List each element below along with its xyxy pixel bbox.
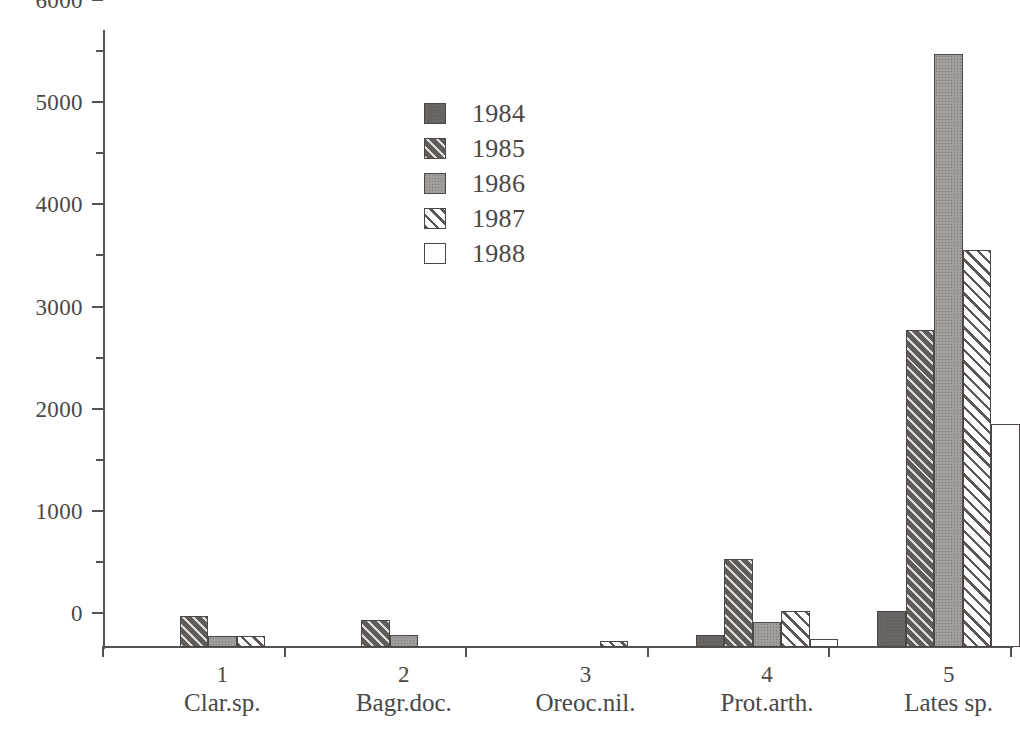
x-axis-group-name: Clar.sp. bbox=[184, 688, 260, 718]
y-axis-minor-tick bbox=[96, 357, 103, 359]
x-axis-group-name: Prot.arth. bbox=[721, 688, 814, 718]
y-axis-tick-label: 6000 bbox=[35, 0, 83, 12]
legend-item: 1984 bbox=[424, 96, 525, 131]
y-axis-tick-label: 5000 bbox=[35, 91, 83, 114]
bar bbox=[237, 636, 266, 647]
x-axis-tick bbox=[647, 646, 649, 657]
y-axis-tick bbox=[92, 612, 103, 614]
x-axis-group-name: Oreoc.nil. bbox=[535, 688, 635, 718]
bar bbox=[390, 635, 419, 647]
legend-item-label: 1984 bbox=[472, 101, 525, 127]
y-axis-minor-tick bbox=[96, 459, 103, 461]
y-axis-tick-label: 0 bbox=[71, 602, 83, 625]
y-axis-minor-tick bbox=[96, 254, 103, 256]
legend-swatch-icon bbox=[424, 208, 446, 229]
legend-swatch-icon bbox=[424, 243, 446, 264]
y-axis-tick bbox=[92, 408, 103, 410]
y-axis-tick-label: 2000 bbox=[35, 397, 83, 420]
bar bbox=[696, 635, 725, 647]
plot-area bbox=[103, 34, 1011, 647]
legend-swatch-icon bbox=[424, 173, 446, 194]
x-axis-tick bbox=[465, 646, 467, 657]
x-axis-group-name: Bagr.doc. bbox=[356, 688, 452, 718]
legend-item: 1987 bbox=[424, 201, 525, 236]
x-axis-tick bbox=[828, 646, 830, 657]
legend: 19841985198619871988 bbox=[424, 96, 525, 271]
y-axis-minor-tick bbox=[96, 561, 103, 563]
legend-item: 1986 bbox=[424, 166, 525, 201]
y-axis-minor-tick bbox=[96, 50, 103, 52]
y-axis-tick-label: 3000 bbox=[35, 295, 83, 318]
x-axis-group-number: 3 bbox=[535, 662, 635, 688]
y-axis-tick bbox=[92, 0, 103, 1]
y-axis-tick bbox=[92, 203, 103, 205]
y-axis-tick-label: 4000 bbox=[35, 193, 83, 216]
bar bbox=[361, 620, 390, 647]
x-axis-group-number: 4 bbox=[721, 662, 814, 688]
legend-item: 1988 bbox=[424, 236, 525, 271]
bar bbox=[781, 611, 810, 647]
legend-item-label: 1988 bbox=[472, 241, 525, 267]
x-axis-group-label: 5Lates sp. bbox=[904, 662, 993, 718]
x-axis-group-label: 4Prot.arth. bbox=[721, 662, 814, 718]
legend-item-label: 1986 bbox=[472, 171, 525, 197]
bar bbox=[753, 622, 782, 647]
y-axis-tick-label: 1000 bbox=[35, 499, 83, 522]
y-axis: 0100020003000400050006000 bbox=[0, 0, 103, 613]
bar bbox=[934, 54, 963, 647]
x-axis-group-number: 2 bbox=[356, 662, 452, 688]
bar bbox=[963, 250, 992, 647]
x-axis-tick bbox=[102, 646, 104, 657]
bar bbox=[208, 636, 237, 647]
y-axis-tick bbox=[92, 510, 103, 512]
legend-swatch-icon bbox=[424, 103, 446, 124]
bar bbox=[810, 639, 839, 647]
x-axis-tick bbox=[1010, 646, 1012, 657]
bar bbox=[724, 559, 753, 647]
x-axis-group-label: 1Clar.sp. bbox=[184, 662, 260, 718]
x-axis-group-label: 2Bagr.doc. bbox=[356, 662, 452, 718]
x-axis-group-number: 1 bbox=[184, 662, 260, 688]
legend-item-label: 1987 bbox=[472, 206, 525, 232]
x-axis-group-label: 3Oreoc.nil. bbox=[535, 662, 635, 718]
y-axis-minor-tick bbox=[96, 152, 103, 154]
bar bbox=[180, 616, 209, 647]
bar bbox=[600, 641, 629, 647]
bar bbox=[906, 330, 935, 647]
legend-swatch-icon bbox=[424, 138, 446, 159]
bar bbox=[991, 424, 1020, 647]
y-axis-tick bbox=[92, 306, 103, 308]
x-axis-tick bbox=[284, 646, 286, 657]
legend-item-label: 1985 bbox=[472, 136, 525, 162]
y-axis-tick bbox=[92, 101, 103, 103]
bar bbox=[877, 611, 906, 647]
x-axis-group-name: Lates sp. bbox=[904, 688, 993, 718]
legend-item: 1985 bbox=[424, 131, 525, 166]
x-axis-group-number: 5 bbox=[904, 662, 993, 688]
